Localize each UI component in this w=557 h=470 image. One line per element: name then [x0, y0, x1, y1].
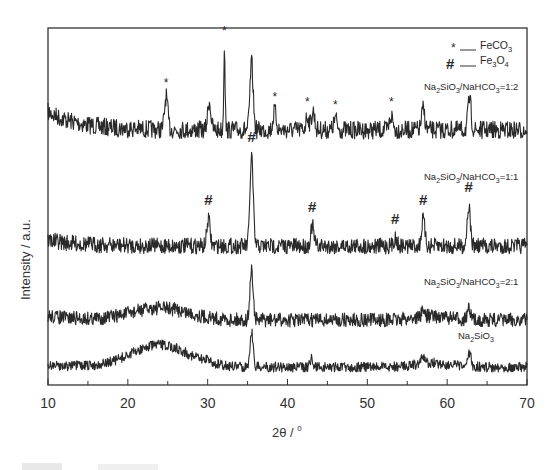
feco3-marker: *: [333, 98, 338, 112]
x-tick-label: 10: [40, 395, 56, 411]
fe3o4-marker: #: [419, 191, 428, 208]
x-tick-label: 70: [519, 395, 535, 411]
y-axis-title: Intensity / a.u.: [18, 219, 33, 300]
fe3o4-marker: #: [391, 210, 400, 227]
series-label-1-2: Na2SiO3/NaHCO3=1:2: [424, 81, 518, 94]
fe3o4-marker: #: [308, 198, 317, 215]
x-tick-label: 20: [120, 395, 136, 411]
x-tick-label: 50: [360, 395, 376, 411]
series-label-2-1: Na2SiO3/NaHCO3=2:1: [424, 276, 518, 289]
series-group: [48, 51, 527, 372]
feco3-marker: *: [222, 24, 227, 38]
x-tick-label: 40: [280, 395, 296, 411]
fe3o4-marker: #: [247, 128, 256, 145]
series-line: [48, 152, 527, 254]
legend-label-feco3: FeCO3: [480, 39, 512, 54]
xrd-chart: 10203040506070 ******###### Na2SiO3/NaHC…: [0, 0, 557, 470]
series-line: [48, 329, 527, 372]
series-label-na2sio3: Na2SiO3: [458, 330, 494, 343]
legend-label-fe3o4: Fe3O4: [480, 54, 509, 69]
legend-hash-symbol: #: [446, 55, 455, 72]
x-tick-label: 60: [439, 395, 455, 411]
feco3-marker: *: [305, 95, 310, 109]
x-axis-ticks: [48, 379, 527, 385]
fe3o4-marker: #: [204, 191, 213, 208]
caption-remnant-2: [98, 464, 158, 470]
series-line: [48, 51, 527, 139]
caption-remnant: [22, 463, 62, 470]
x-tick-label: 30: [200, 395, 216, 411]
feco3-marker: *: [389, 95, 394, 109]
feco3-marker: *: [272, 90, 277, 104]
legend-star-symbol: *: [451, 41, 456, 55]
x-axis-title: 2θ / 0: [272, 424, 302, 440]
series-line: [48, 265, 527, 327]
feco3-marker: *: [164, 76, 169, 90]
legend: * FeCO3 # Fe3O4: [446, 39, 512, 72]
x-axis-tick-labels: 10203040506070: [40, 395, 535, 411]
